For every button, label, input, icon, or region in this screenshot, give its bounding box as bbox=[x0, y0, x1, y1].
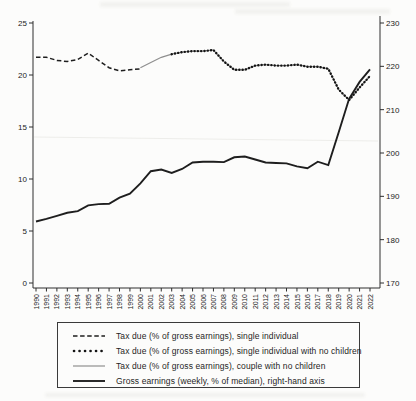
right-tick-label: 170 bbox=[386, 279, 400, 288]
x-tick-label: 2017 bbox=[314, 294, 321, 310]
dotted-line-icon bbox=[71, 347, 107, 355]
x-tick-label: 1991 bbox=[43, 294, 50, 310]
dashed-line-icon bbox=[71, 332, 107, 340]
legend-item-couple-no-children: Tax due (% of gross earnings), couple wi… bbox=[71, 358, 359, 373]
x-tick-label: 1999 bbox=[127, 294, 134, 310]
right-tick-label: 190 bbox=[386, 192, 400, 201]
right-tick-label: 180 bbox=[386, 236, 400, 245]
legend-label: Tax due (% of gross earnings), couple wi… bbox=[116, 361, 326, 371]
right-tick-label: 230 bbox=[386, 19, 400, 28]
x-tick-label: 2007 bbox=[210, 294, 217, 310]
x-tick-label: 1994 bbox=[74, 294, 81, 310]
legend-item-single-individual-no-children: Tax due (% of gross earnings), single in… bbox=[71, 343, 359, 358]
left-tick-label: 25 bbox=[18, 19, 27, 28]
left-tick-label: 15 bbox=[18, 123, 27, 132]
x-tick-label: 2013 bbox=[273, 294, 280, 310]
scan-artifact bbox=[45, 393, 365, 397]
legend-label: Gross earnings (weekly, % of median), ri… bbox=[116, 376, 325, 386]
legend-item-gross-earnings: Gross earnings (weekly, % of median), ri… bbox=[71, 373, 359, 388]
right-tick-label: 200 bbox=[386, 149, 400, 158]
x-tick-label: 2005 bbox=[189, 294, 196, 310]
x-tick-label: 1995 bbox=[85, 294, 92, 310]
series-line-solid-thick bbox=[36, 69, 370, 221]
x-tick-label: 2009 bbox=[231, 294, 238, 310]
figure: 0510152025170180190200210220230199019911… bbox=[0, 0, 416, 401]
x-tick-label: 2010 bbox=[241, 294, 248, 310]
x-tick-label: 1997 bbox=[106, 294, 113, 310]
thick-line-icon bbox=[71, 377, 107, 385]
x-tick-label: 2008 bbox=[220, 294, 227, 310]
x-tick-label: 2022 bbox=[367, 294, 374, 310]
x-tick-label: 2006 bbox=[200, 294, 207, 310]
x-tick-label: 2012 bbox=[262, 294, 269, 310]
left-tick-label: 10 bbox=[18, 175, 27, 184]
series-line-solid-thin bbox=[140, 50, 370, 100]
x-tick-label: 2004 bbox=[179, 294, 186, 310]
x-tick-label: 1993 bbox=[64, 294, 71, 310]
left-tick-label: 5 bbox=[23, 227, 28, 236]
x-tick-label: 2002 bbox=[158, 294, 165, 310]
x-tick-label: 1992 bbox=[53, 294, 60, 310]
x-tick-label: 1998 bbox=[116, 294, 123, 310]
x-tick-label: 2011 bbox=[252, 294, 259, 309]
x-tick-label: 1996 bbox=[95, 294, 102, 310]
legend-item-single-individual: Tax due (% of gross earnings), single in… bbox=[71, 328, 359, 343]
x-tick-label: 2014 bbox=[283, 294, 290, 310]
chart-svg: 0510152025170180190200210220230199019911… bbox=[0, 0, 416, 320]
right-tick-label: 210 bbox=[386, 106, 400, 115]
series-line-dotted bbox=[172, 50, 370, 100]
x-tick-label: 2016 bbox=[304, 294, 311, 310]
left-tick-label: 20 bbox=[18, 71, 27, 80]
x-tick-label: 2020 bbox=[346, 294, 353, 310]
series-line-dashed bbox=[36, 53, 140, 71]
right-tick-label: 220 bbox=[386, 62, 400, 71]
legend-label: Tax due (% of gross earnings), single in… bbox=[116, 331, 298, 341]
x-tick-label: 2015 bbox=[294, 294, 301, 310]
x-tick-label: 2001 bbox=[147, 294, 154, 310]
x-tick-label: 2018 bbox=[325, 294, 332, 310]
x-tick-label: 2019 bbox=[335, 294, 342, 310]
legend-label: Tax due (% of gross earnings), single in… bbox=[116, 346, 362, 356]
chart-content: 0510152025170180190200210220230199019911… bbox=[18, 16, 400, 310]
legend: Tax due (% of gross earnings), single in… bbox=[57, 322, 360, 388]
scan-artifact-line bbox=[34, 137, 378, 141]
x-tick-label: 1990 bbox=[33, 294, 40, 310]
left-tick-label: 0 bbox=[23, 279, 28, 288]
x-tick-label: 2003 bbox=[168, 294, 175, 310]
x-tick-label: 2000 bbox=[137, 294, 144, 310]
x-tick-label: 2021 bbox=[356, 294, 363, 310]
thin-line-icon bbox=[71, 362, 107, 370]
